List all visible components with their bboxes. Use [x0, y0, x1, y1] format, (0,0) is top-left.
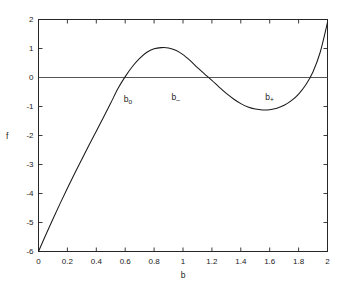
data-curve [39, 22, 328, 251]
figure-canvas: 00.20.40.60.811.21.41.61.82 210-1-2-3-4-… [0, 0, 348, 290]
y-tick-label: -3 [26, 161, 33, 169]
x-axis-title: b [181, 271, 186, 280]
x-tick-label: 0.2 [62, 258, 73, 266]
x-tick-label: 1.8 [293, 258, 304, 266]
y-tick-label: 0 [29, 74, 33, 82]
annotation-b-plus: b+ [265, 93, 274, 103]
x-tick-label: 0.4 [91, 258, 102, 266]
annotation-subscript: – [176, 96, 180, 103]
x-tick-label: 1.4 [235, 258, 246, 266]
annotation-subscript: + [270, 96, 274, 103]
x-tick-label: 1.2 [206, 258, 217, 266]
y-axis-title: f [6, 131, 8, 140]
x-tick-label: 1 [181, 258, 185, 266]
x-tick-label: 0.8 [149, 258, 160, 266]
y-tick-label: -1 [26, 103, 33, 111]
y-tick-label: -4 [26, 190, 33, 198]
x-tick-label: 0.6 [120, 258, 131, 266]
y-tick-label: 2 [29, 16, 33, 24]
annotation-subscript: o [128, 98, 132, 105]
chart-plot-area [0, 0, 348, 290]
annotation-b-minus: b– [171, 93, 179, 103]
y-tick-label: -2 [26, 132, 33, 140]
y-tick-label: -5 [26, 219, 33, 227]
x-tick-label: 0 [36, 258, 40, 266]
x-tick-label: 1.6 [264, 258, 275, 266]
y-tick-label: 1 [29, 45, 33, 53]
annotation-b-zero: bo [124, 95, 132, 105]
y-tick-label: -6 [26, 248, 33, 256]
x-tick-label: 2 [325, 258, 329, 266]
